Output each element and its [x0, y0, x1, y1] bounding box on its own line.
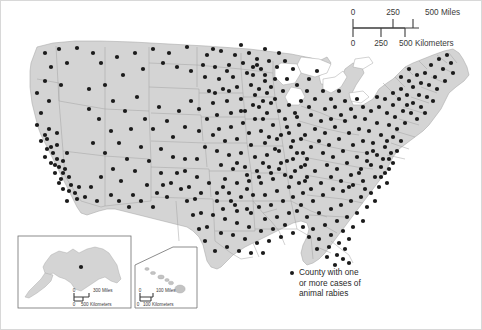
scale-km-tick-250: 250	[374, 39, 388, 48]
main-scale-bar: 0 250 500 Miles 0 250 500 Kilometers	[351, 8, 460, 48]
hawaii-scale-miles-tick-0: 0	[139, 288, 142, 293]
map-legend: County with one or more cases of animal …	[290, 267, 402, 299]
scale-km-label: 500 Kilometers	[399, 39, 454, 48]
hawaii-inset: 0 100 Miles 0 100 Kilometers	[135, 247, 197, 308]
hawaii-scale-miles-label: 100 Miles	[156, 288, 176, 293]
scale-miles-label: 500 Miles	[425, 8, 460, 17]
hawaii-scale-km-label: 100 Kilometers	[143, 302, 174, 307]
legend-text-block: County with one or more cases of animal …	[299, 267, 361, 299]
alaska-scale-miles-label: 300 Miles	[93, 288, 113, 293]
alaska-scale-km-label: 500 Kilometers	[81, 302, 112, 307]
scale-km-tick-0: 0	[351, 39, 356, 48]
legend-line-2: or more cases of	[299, 278, 361, 289]
alaska-scale-km-tick-0: 0	[73, 302, 76, 307]
alaska-rabies-dot	[79, 265, 83, 269]
legend-dot-icon	[290, 271, 294, 275]
legend-line-1: County with one	[299, 267, 361, 278]
hawaii-scale-km-tick-0: 0	[137, 302, 140, 307]
scale-miles-tick-0: 0	[351, 8, 356, 17]
map-figure: 0 250 500 Miles 0 250 500 Kilometers 0 3…	[0, 0, 482, 330]
scale-miles-tick-250: 250	[386, 8, 400, 17]
alaska-inset: 0 300 Miles 0 500 Kilometers	[18, 236, 131, 308]
map-canvas: 0 250 500 Miles 0 250 500 Kilometers 0 3…	[1, 1, 482, 330]
alaska-scale-miles-tick-0: 0	[73, 288, 76, 293]
legend-line-3: animal rabies	[299, 288, 361, 299]
